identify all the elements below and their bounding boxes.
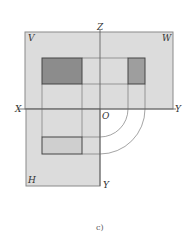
label-w: W: [162, 33, 172, 43]
label-z: Z: [96, 22, 104, 32]
label-y-right: Y: [175, 104, 182, 114]
label-y-bottom: Y: [103, 180, 110, 190]
orthographic-projection-diagram: V W H Z X O Y Y c): [0, 0, 191, 235]
label-h: H: [27, 175, 36, 185]
label-o: O: [102, 111, 110, 121]
label-x: X: [14, 104, 22, 114]
top-view: [42, 137, 82, 154]
front-view: [42, 58, 82, 84]
side-view: [128, 58, 145, 84]
figure-caption: c): [96, 223, 104, 232]
